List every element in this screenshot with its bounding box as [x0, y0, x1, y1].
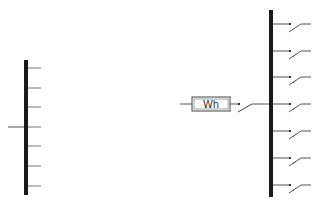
incoming-circuit: Wh	[180, 97, 269, 112]
outgoing-breakers	[273, 23, 311, 193]
breaker-7	[273, 184, 311, 193]
breaker-1	[273, 23, 311, 32]
right-busbar	[269, 10, 273, 197]
left-busbar-group	[8, 60, 41, 195]
breaker-4	[273, 103, 311, 112]
single-line-diagram: Wh	[0, 0, 323, 205]
breaker-5	[273, 130, 311, 139]
breaker-6	[273, 157, 311, 166]
breaker-2	[273, 50, 311, 59]
left-feeder-ticks	[28, 68, 41, 186]
right-busbar-group	[269, 10, 311, 197]
main-switch-blade	[238, 104, 252, 112]
meter-label: Wh	[203, 99, 219, 110]
breaker-3	[273, 76, 311, 85]
main-switch-contact	[238, 103, 240, 105]
left-busbar	[24, 60, 28, 195]
